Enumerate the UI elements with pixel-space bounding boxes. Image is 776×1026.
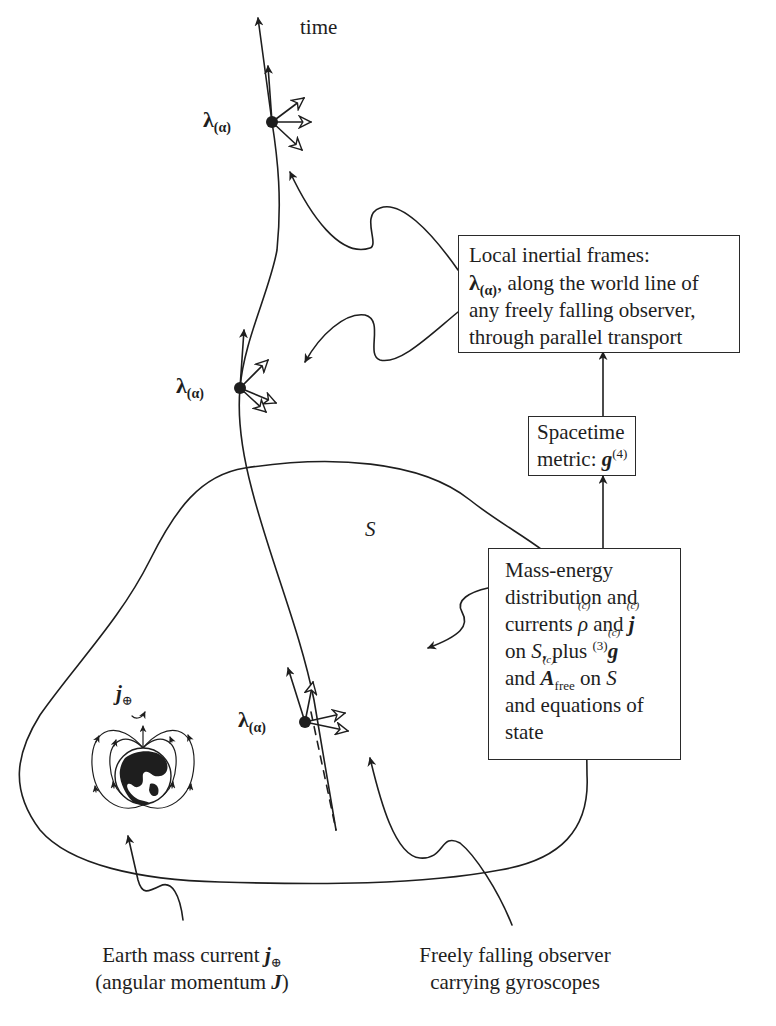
accent-c: (c) xyxy=(543,653,555,665)
earth-subscript: ⊕ xyxy=(122,693,133,708)
mass-energy-box: Mass-energy distribution and currents (c… xyxy=(488,548,681,760)
frame-label-bottom: λ(α) xyxy=(238,706,266,734)
time-axis-label: time xyxy=(300,14,337,41)
j-symbol: j xyxy=(629,612,635,636)
lambda-symbol: λ(α) xyxy=(203,107,231,132)
frame-bottom-time-arrow xyxy=(288,668,305,722)
surface-s-text: S xyxy=(365,517,376,541)
earth-subscript: ⊕ xyxy=(271,955,282,970)
source-line-4: on S, plus (3)(c)g xyxy=(505,638,664,665)
accent-c: (c) xyxy=(578,599,590,611)
local-inertial-frames-box: Local inertial frames: λ(α), along the w… xyxy=(458,235,740,353)
wavy-arrow-to-top-frame xyxy=(290,172,458,270)
currents-text: currents xyxy=(505,612,578,636)
spacetime-metric-box: Spacetime metric: g(4) xyxy=(528,416,636,476)
and-text: and xyxy=(505,666,541,690)
earth-caption: Earth mass current j⊕ (angular momentum … xyxy=(82,942,302,996)
earth-caption-line-2: (angular momentum J) xyxy=(82,969,302,996)
frame-top-spatial-arrow-3 xyxy=(272,122,302,150)
time-label-text: time xyxy=(300,15,337,39)
lambda-index: (α) xyxy=(249,720,266,735)
box-line-2: λ(α), along the world line of xyxy=(469,269,729,297)
angular-momentum-text: (angular momentum xyxy=(95,970,271,994)
free-subscript: free xyxy=(555,678,575,693)
g-symbol: g xyxy=(608,639,619,663)
box-line-1: Local inertial frames: xyxy=(469,242,729,269)
event-dot-top xyxy=(266,116,278,128)
accent-c: (c) xyxy=(627,599,639,611)
lambda-char: λ xyxy=(203,107,214,132)
earth-current-label: j⊕ xyxy=(116,680,133,707)
surface-s-label: S xyxy=(365,516,376,543)
earth-caption-line-1: Earth mass current j⊕ xyxy=(82,942,302,969)
a-symbol: A xyxy=(541,666,555,690)
observer-caption-line-1: Freely falling observer xyxy=(405,942,625,969)
wavy-arrow-to-surface xyxy=(428,588,488,648)
lambda-index: (α) xyxy=(187,386,204,401)
metric-g-symbol: g xyxy=(602,447,613,471)
wavy-arrow-observer-caption xyxy=(370,758,512,925)
metric-superscript: (4) xyxy=(612,446,627,461)
earth-globe-icon xyxy=(115,748,171,805)
rho-symbol: ρ xyxy=(578,612,588,636)
s-symbol: S xyxy=(606,666,617,690)
observer-caption-line-2: carrying gyroscopes xyxy=(405,969,625,996)
lambda-index: (α) xyxy=(214,120,231,135)
source-line-6: and equations of xyxy=(505,692,664,719)
box-line-2-rest: , along the world line of xyxy=(497,271,699,295)
frame-bottom-spatial-arrow-3 xyxy=(305,722,348,731)
lambda-char: λ xyxy=(176,373,187,398)
close-paren: ) xyxy=(282,970,289,994)
metric-line-1: Spacetime xyxy=(537,419,627,446)
lambda-symbol: λ(α) xyxy=(238,707,266,732)
frame-label-middle: λ(α) xyxy=(176,372,204,400)
event-dot-middle xyxy=(234,382,246,394)
source-line-5: and (c)Afree on S xyxy=(505,665,664,692)
on-text: on xyxy=(575,666,607,690)
wavy-arrow-to-middle-frame xyxy=(305,312,458,362)
diagram-canvas xyxy=(0,0,776,1026)
three-superscript: (3) xyxy=(593,638,608,653)
J-symbol: J xyxy=(271,970,282,994)
metric-text: metric: xyxy=(537,447,602,471)
lambda-symbol: λ(α) xyxy=(176,373,204,398)
frame-label-top: λ(α) xyxy=(203,106,231,134)
event-dot-bottom xyxy=(299,716,311,728)
earth-caption-text: Earth mass current xyxy=(102,943,265,967)
source-line-1: Mass-energy xyxy=(505,557,664,584)
observer-caption: Freely falling observer carrying gyrosco… xyxy=(405,942,625,996)
box-line-4: through parallel transport xyxy=(469,324,729,351)
s-symbol: S xyxy=(531,639,542,663)
accent-c: (c) xyxy=(608,626,620,638)
frame-middle-time-arrow xyxy=(240,330,244,388)
lambda-char: λ xyxy=(469,270,480,295)
metric-line-2: metric: g(4) xyxy=(537,446,627,473)
wavy-arrow-earth-caption xyxy=(128,836,183,920)
source-line-3: currents (c)ρ and (c)j xyxy=(505,611,664,638)
on-text: on xyxy=(505,639,531,663)
box-line-3: any freely falling observer, xyxy=(469,297,729,324)
source-line-7: state xyxy=(505,719,664,746)
lambda-char: λ xyxy=(238,707,249,732)
